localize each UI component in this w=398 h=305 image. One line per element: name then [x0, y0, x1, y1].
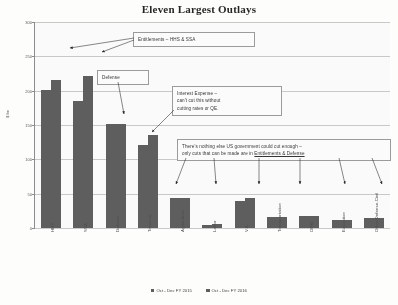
bar: [116, 124, 126, 228]
x-axis-category: Agriculture: [163, 231, 195, 287]
bar-group: [35, 22, 67, 228]
x-axis-category: Transportation: [261, 231, 293, 287]
x-axis-category-label: HHS: [50, 223, 55, 232]
bar-group: [100, 22, 132, 228]
bar-group: [261, 22, 293, 228]
legend-item: Oct - Dec FY 2016: [206, 288, 247, 293]
x-axis-category-label: Defense: [115, 215, 120, 232]
y-axis-tick-label: 50: [27, 191, 35, 196]
bar: [267, 217, 277, 228]
annotation-defense: Defense: [97, 70, 149, 85]
annotation-nothing-line-2-prefix: only cuts that can be made are in: [182, 151, 254, 156]
chart-page: Eleven Largest Outlays $ bn 050100150200…: [0, 0, 398, 305]
annotation-interest-line-1: Interest Expense –: [177, 90, 277, 98]
bar: [299, 216, 309, 228]
x-axis-category: Treasury: [131, 231, 163, 287]
bar: [41, 90, 51, 228]
x-axis-category-labels: HHSSSADefenseTreasuryAgricultureLaborV.A…: [34, 231, 390, 287]
x-axis-category-label: Treasury: [147, 214, 152, 232]
bar-group: [164, 22, 196, 228]
x-axis-category-label: Other Defense-Civil: [374, 193, 379, 232]
x-axis-category-label: SSA: [83, 223, 88, 232]
annotation-nothing-line-2: only cuts that can be made are in Entitl…: [182, 150, 386, 158]
bar-group: [229, 22, 261, 228]
annotation-nothing-line-2-underlined: Entitlements & Defense: [254, 151, 304, 156]
bar: [106, 124, 116, 228]
legend-item: Oct - Dec FY 2015: [151, 288, 192, 293]
bar: [51, 80, 61, 228]
legend-swatch: [151, 289, 155, 293]
bar: [83, 76, 93, 228]
x-axis-category: V.A.: [228, 231, 260, 287]
bar-group: [67, 22, 99, 228]
x-axis-category: Education: [325, 231, 357, 287]
y-axis-tick-label: 250: [25, 54, 35, 59]
y-axis-tick-label: 300: [25, 20, 35, 25]
bar: [73, 101, 83, 228]
x-axis-category-label: Labor: [212, 221, 217, 233]
x-axis-category-label: V.A.: [244, 224, 249, 232]
bar: [170, 198, 180, 228]
bar-group: [325, 22, 357, 228]
x-axis-category-label: Transportation: [277, 203, 282, 232]
annotation-nothing-line-1: There's nothing else US government could…: [182, 143, 386, 151]
annotation-entitlements: Entitlements – HHS & SSA: [133, 32, 255, 47]
x-axis-category: SSA: [66, 231, 98, 287]
x-axis-category-label: Agriculture: [180, 210, 185, 232]
bar-group: [196, 22, 228, 228]
x-axis-category: Labor: [196, 231, 228, 287]
annotation-nothing-else-to-cut: There's nothing else US government could…: [177, 139, 391, 161]
x-axis-category-label: OPM: [309, 222, 314, 232]
x-axis-category: OPM: [293, 231, 325, 287]
bar-group: [293, 22, 325, 228]
chart-title: Eleven Largest Outlays: [0, 3, 398, 15]
y-axis-tick-label: 150: [25, 123, 35, 128]
annotation-interest-line-3: cutting rates or QE.: [177, 105, 277, 113]
annotation-interest-expense: Interest Expense – can't cut this withou…: [172, 86, 282, 116]
bar-group: [132, 22, 164, 228]
x-axis-category: HHS: [34, 231, 66, 287]
bar: [202, 225, 212, 228]
y-axis-tick-label: 200: [25, 88, 35, 93]
x-axis-category: Defense: [99, 231, 131, 287]
legend-label: Oct - Dec FY 2015: [156, 288, 192, 293]
legend-label: Oct - Dec FY 2016: [212, 288, 248, 293]
annotation-interest-line-2: can't cut this without: [177, 97, 277, 105]
legend-swatch: [206, 289, 210, 293]
x-axis-category-label: Education: [341, 212, 346, 232]
chart-legend: Oct - Dec FY 2015Oct - Dec FY 2016: [0, 288, 398, 293]
x-axis-category: Other Defense-Civil: [358, 231, 390, 287]
y-axis-title: $ bn: [5, 110, 10, 118]
bar-groups: [35, 22, 390, 228]
y-axis-tick-label: 100: [25, 157, 35, 162]
plot-area: 050100150200250300: [34, 22, 390, 229]
bar: [364, 218, 374, 228]
